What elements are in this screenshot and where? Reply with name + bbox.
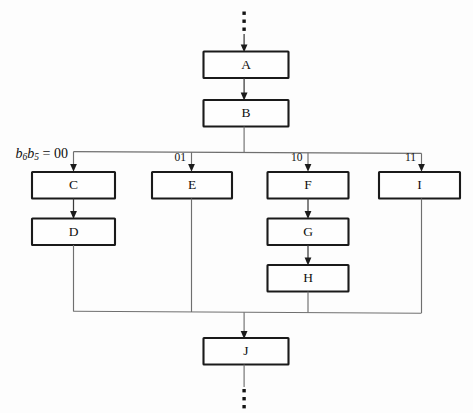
box-g-label: G [303,224,313,239]
fan-out-bus [70,127,425,172]
box-c[interactable]: C [32,172,115,199]
branch-label-11: 11 [405,151,416,163]
flowchart-diagram: A B b6b5 = 0 [0,0,473,413]
box-d-label: D [69,224,79,239]
box-h-label: H [303,270,313,285]
box-e[interactable]: E [152,172,232,199]
branch-label-10: 10 [291,151,303,163]
box-a[interactable]: A [204,52,289,79]
edge-top-to-a [241,34,248,52]
box-f[interactable]: F [268,172,349,199]
box-f-label: F [304,177,312,192]
edge-g-to-h [305,245,312,266]
box-i-label: I [417,177,422,192]
top-ellipsis-icon [242,12,245,31]
merge-bus [74,311,422,339]
edge-a-to-b [241,78,248,101]
edge-c-to-d [70,199,77,220]
box-c-label: C [69,177,78,192]
box-b-label: B [241,105,250,120]
branch-label-01: 01 [175,151,187,163]
box-h[interactable]: H [268,265,349,292]
edge-f-to-g [305,199,312,220]
box-j[interactable]: J [204,338,289,365]
flowchart-canvas: A B b6b5 = 0 [0,0,473,413]
box-a-label: A [241,57,251,72]
box-e-label: E [188,177,196,192]
box-g[interactable]: G [268,219,349,246]
box-d[interactable]: D [32,219,115,246]
box-j-label: J [243,343,248,358]
bottom-ellipsis-icon [242,389,245,408]
box-b[interactable]: B [204,100,289,127]
box-i[interactable]: I [379,172,460,199]
branch-label-00: b6b5 = 00 [16,146,68,162]
